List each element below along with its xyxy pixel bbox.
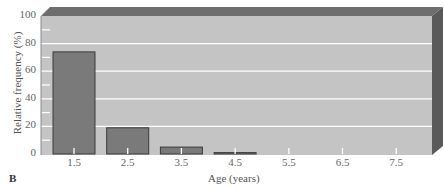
x-tick-label: 4.5 <box>220 156 250 168</box>
plot-area <box>41 16 432 155</box>
x-tick-label: 5.5 <box>274 156 304 168</box>
x-tick-label: 2.5 <box>113 156 143 168</box>
x-tick-label: 3.5 <box>166 156 196 168</box>
panel-label: B <box>9 172 16 184</box>
x-tick-label: 1.5 <box>59 156 89 168</box>
x-tick-label: 6.5 <box>328 156 358 168</box>
plot-right-side <box>432 7 443 155</box>
x-axis-label: Age (years) <box>208 172 260 184</box>
x-tick-label: 7.5 <box>381 156 411 168</box>
plot-top-bevel <box>41 7 443 16</box>
y-tick-label: 0 <box>14 146 36 158</box>
bar <box>53 52 95 154</box>
y-axis-label: Relative frequency (%) <box>11 28 23 138</box>
y-tick-label: 100 <box>14 8 36 20</box>
